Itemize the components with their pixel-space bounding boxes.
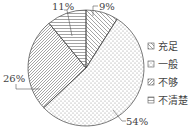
pie-slices — [28, 10, 144, 126]
slice-label-buqingchu: 11% — [52, 1, 74, 12]
slice-label-yiban: 54% — [126, 116, 148, 127]
legend-swatch-yiban — [148, 61, 154, 67]
slice-label-bugou: 26% — [3, 73, 25, 84]
legend-swatch-bugou — [148, 79, 154, 85]
legend-swatch-chongzu — [148, 43, 154, 49]
legend: 充足 一般 不够 不清楚 — [148, 40, 188, 106]
legend-swatch-buqingchu — [148, 97, 154, 103]
legend-label: 不清楚 — [158, 94, 188, 106]
pie-chart: 9% 11% 26% 54% 充足 一般 不够 不清楚 — [0, 0, 193, 137]
legend-label: 一般 — [158, 58, 178, 70]
legend-label: 不够 — [158, 77, 178, 88]
legend-label: 充足 — [158, 40, 178, 52]
slice-label-chongzu: 9% — [99, 1, 115, 12]
